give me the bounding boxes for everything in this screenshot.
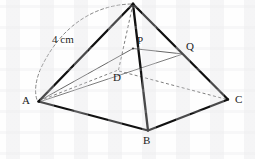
vertex-dot-apex	[132, 3, 135, 6]
vertex-label-d: D	[113, 72, 121, 83]
line-p-q	[133, 49, 183, 55]
interior-lines-group	[39, 49, 183, 103]
vertex-label-c: C	[235, 94, 243, 105]
pyramid-figure: A B C D P Q 4 cm	[0, 0, 255, 159]
vertex-label-p: P	[137, 35, 143, 46]
edge-d-c-dashed	[119, 71, 227, 100]
vertex-dot-p	[132, 47, 134, 49]
measurement-label-4cm: 4 cm	[52, 34, 74, 45]
edge-b-c	[148, 100, 228, 131]
edge-apex-a	[39, 4, 134, 102]
visible-edges-group	[39, 4, 229, 131]
vertex-label-b: B	[143, 135, 151, 146]
edge-apex-b	[133, 4, 148, 131]
vertex-label-a: A	[22, 95, 30, 106]
measure-arc-dashed	[36, 4, 131, 100]
edge-a-d-dashed	[39, 71, 117, 102]
pyramid-diagram-canvas	[0, 0, 255, 159]
edge-apex-d-dashed	[119, 4, 134, 70]
vertex-label-q: Q	[186, 41, 194, 52]
edge-a-b	[39, 102, 149, 131]
edge-apex-c	[133, 4, 228, 100]
